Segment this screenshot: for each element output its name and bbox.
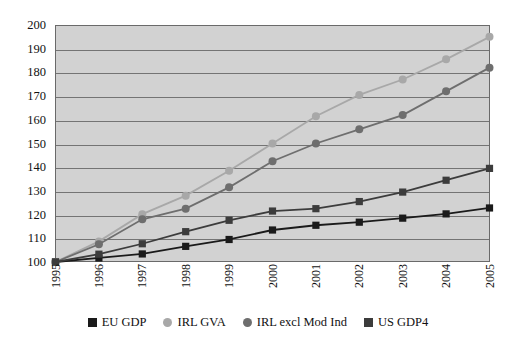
data-point-marker — [269, 226, 276, 233]
data-point-marker — [138, 215, 146, 223]
data-point-marker — [399, 188, 406, 195]
data-point-marker — [312, 140, 320, 148]
x-axis-tick-label: 2003 — [397, 264, 409, 288]
data-point-marker — [225, 167, 233, 175]
data-point-marker — [225, 183, 233, 191]
data-point-marker — [269, 207, 276, 214]
y-axis-tick-label: 180 — [27, 66, 46, 79]
chart-legend: EU GDPIRL GVAIRL excl Mod IndUS GDP4 — [0, 310, 516, 334]
y-axis-tick-label: 140 — [27, 161, 46, 174]
series-irl-excl-mod-ind — [52, 64, 494, 266]
x-axis-tick-label: 1999 — [223, 264, 235, 288]
data-point-marker — [226, 236, 233, 243]
legend-item[interactable]: IRL GVA — [163, 316, 225, 329]
legend-item-label: IRL GVA — [177, 316, 225, 329]
data-point-marker — [355, 125, 363, 133]
legend-item[interactable]: US GDP4 — [364, 316, 428, 329]
legend-item-label: EU GDP — [102, 316, 147, 329]
legend-item[interactable]: EU GDP — [88, 316, 147, 329]
series-layer — [55, 25, 490, 262]
data-point-marker — [442, 87, 450, 95]
y-axis: 100110120130140150160170180190200 — [0, 25, 52, 262]
data-point-marker — [226, 217, 233, 224]
data-point-marker — [486, 33, 494, 41]
data-point-marker — [182, 192, 190, 200]
y-axis-tick-label: 110 — [28, 232, 46, 245]
data-point-marker — [399, 76, 407, 84]
legend-square-icon — [364, 318, 373, 327]
data-point-marker — [486, 165, 493, 172]
data-point-marker — [95, 251, 102, 258]
data-point-marker — [355, 91, 363, 99]
data-point-marker — [312, 205, 319, 212]
y-axis-tick-label: 100 — [27, 256, 46, 269]
data-point-marker — [312, 222, 319, 229]
legend-item-label: US GDP4 — [378, 316, 428, 329]
series-line — [56, 208, 490, 262]
data-point-marker — [312, 112, 320, 120]
x-axis-tick-label: 1998 — [180, 264, 192, 288]
y-axis-tick-label: 120 — [27, 208, 46, 221]
legend-item-label: IRL excl Mod Ind — [257, 316, 347, 329]
data-point-marker — [139, 240, 146, 247]
y-axis-tick-label: 170 — [27, 90, 46, 103]
x-axis: 1995199619971998199920002001200220032004… — [55, 262, 490, 308]
data-point-marker — [443, 177, 450, 184]
data-point-marker — [139, 250, 146, 257]
y-axis-tick-label: 130 — [27, 185, 46, 198]
data-point-marker — [442, 55, 450, 63]
legend-circle-icon — [243, 318, 252, 327]
data-point-marker — [182, 243, 189, 250]
data-point-marker — [356, 198, 363, 205]
x-axis-tick-label: 2005 — [484, 264, 496, 288]
legend-item[interactable]: IRL excl Mod Ind — [243, 316, 347, 329]
data-point-marker — [486, 64, 494, 72]
x-axis-tick-label: 2002 — [353, 264, 365, 288]
data-point-marker — [399, 111, 407, 119]
y-axis-tick-label: 150 — [27, 137, 46, 150]
data-point-marker — [443, 210, 450, 217]
x-axis-tick-label: 2004 — [440, 264, 452, 288]
data-point-marker — [486, 204, 493, 211]
x-axis-tick-label: 1996 — [93, 264, 105, 288]
data-point-marker — [269, 157, 277, 165]
x-axis-tick-label: 2000 — [267, 264, 279, 288]
legend-circle-icon — [163, 318, 172, 327]
x-axis-tick-label: 1995 — [50, 264, 62, 288]
y-axis-tick-label: 200 — [27, 19, 46, 32]
data-point-marker — [269, 140, 277, 148]
data-point-marker — [356, 219, 363, 226]
x-axis-tick-label: 1997 — [136, 264, 148, 288]
data-point-marker — [95, 240, 103, 248]
y-axis-tick-label: 160 — [27, 114, 46, 127]
data-point-marker — [182, 205, 190, 213]
y-axis-tick-label: 190 — [27, 42, 46, 55]
legend-square-icon — [88, 318, 97, 327]
data-point-marker — [182, 228, 189, 235]
x-axis-tick-label: 2001 — [310, 264, 322, 288]
data-point-marker — [399, 215, 406, 222]
chart-container: 100110120130140150160170180190200 199519… — [0, 0, 516, 350]
